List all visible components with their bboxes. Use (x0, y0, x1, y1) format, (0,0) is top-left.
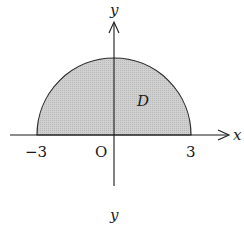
x-axis-label: x (233, 126, 242, 144)
tick-label-neg3: −3 (25, 143, 47, 161)
region-label-d: D (136, 92, 149, 110)
origin-label: O (95, 143, 107, 161)
semicircle-diagram: y x O −3 3 D y (0, 0, 244, 227)
y-axis-label: y (109, 1, 119, 19)
tick-label-3: 3 (186, 143, 196, 161)
caption-label: y (109, 206, 119, 224)
